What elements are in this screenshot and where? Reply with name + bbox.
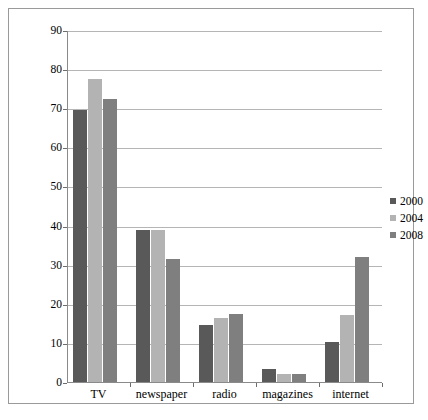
legend-item-2004[interactable]: 2004 <box>390 209 428 226</box>
y-axis-tick-label: 10 <box>22 338 62 350</box>
y-axis-tick <box>63 344 67 345</box>
y-axis-tick <box>63 187 67 188</box>
y-axis-tick-label: 30 <box>22 260 62 272</box>
x-axis-label-magazines: magazines <box>256 388 319 401</box>
y-axis-tick <box>63 383 67 384</box>
legend-label: 2008 <box>400 229 423 241</box>
x-axis-tick <box>130 383 131 387</box>
bar-group <box>325 31 369 383</box>
bar-group <box>73 31 117 383</box>
bar-newspaper-2004[interactable] <box>151 230 165 383</box>
legend-swatch-icon <box>390 198 396 204</box>
y-axis-tick-label: 0 <box>22 377 62 389</box>
x-axis-tick <box>319 383 320 387</box>
bar-radio-2000[interactable] <box>199 325 213 383</box>
chart-legend: 200020042008 <box>390 192 428 243</box>
bar-internet-2008[interactable] <box>355 257 369 383</box>
legend-swatch-icon <box>390 215 396 221</box>
legend-label: 2004 <box>400 212 423 224</box>
y-axis-tick <box>63 70 67 71</box>
y-axis-tick <box>63 266 67 267</box>
plot-area <box>67 31 382 383</box>
y-axis-tick-label: 80 <box>22 64 62 76</box>
y-axis-tick-label: 60 <box>22 142 62 154</box>
bar-radio-2004[interactable] <box>214 318 228 383</box>
y-axis-tick-label: 50 <box>22 181 62 193</box>
y-axis-tick <box>63 31 67 32</box>
bar-group <box>136 31 180 383</box>
bar-internet-2004[interactable] <box>340 315 354 383</box>
x-axis-label-newspaper: newspaper <box>130 388 193 401</box>
chart-frame: % getting most of their news from… 01020… <box>8 8 414 404</box>
y-axis-tick-labels: 0102030405060708090 <box>17 31 62 383</box>
y-axis-tick <box>63 305 67 306</box>
y-axis-tick-label: 70 <box>22 103 62 115</box>
bar-magazines-2004[interactable] <box>277 374 291 383</box>
legend-swatch-icon <box>390 232 396 238</box>
y-axis-tick-label: 90 <box>22 25 62 37</box>
y-axis-tick-label: 40 <box>22 221 62 233</box>
legend-item-2008[interactable]: 2008 <box>390 226 428 243</box>
x-axis-label-TV: TV <box>67 388 130 401</box>
y-axis-tick <box>63 227 67 228</box>
x-axis-tick <box>382 383 383 387</box>
bar-group <box>199 31 243 383</box>
y-axis-tick <box>63 109 67 110</box>
x-axis-tick <box>256 383 257 387</box>
bar-internet-2000[interactable] <box>325 342 339 383</box>
x-axis-label-internet: internet <box>319 388 382 401</box>
bar-newspaper-2000[interactable] <box>136 230 150 383</box>
bar-TV-2008[interactable] <box>103 99 117 383</box>
bar-newspaper-2008[interactable] <box>166 259 180 383</box>
bar-magazines-2000[interactable] <box>262 369 276 383</box>
legend-label: 2000 <box>400 195 423 207</box>
bar-magazines-2008[interactable] <box>292 374 306 383</box>
x-axis-tick <box>193 383 194 387</box>
y-axis-tick-label: 20 <box>22 299 62 311</box>
y-axis-tick <box>63 148 67 149</box>
legend-item-2000[interactable]: 2000 <box>390 192 428 209</box>
bar-TV-2000[interactable] <box>73 110 87 383</box>
bar-radio-2008[interactable] <box>229 314 243 383</box>
x-axis-label-radio: radio <box>193 388 256 401</box>
bar-TV-2004[interactable] <box>88 79 102 383</box>
bar-group <box>262 31 306 383</box>
